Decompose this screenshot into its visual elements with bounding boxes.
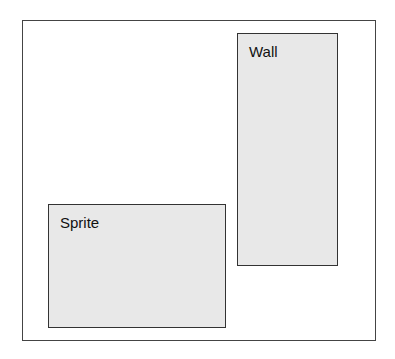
sprite-box: Sprite xyxy=(48,204,226,328)
wall-label: Wall xyxy=(249,43,278,60)
sprite-label: Sprite xyxy=(60,214,99,231)
wall-box: Wall xyxy=(237,33,338,266)
